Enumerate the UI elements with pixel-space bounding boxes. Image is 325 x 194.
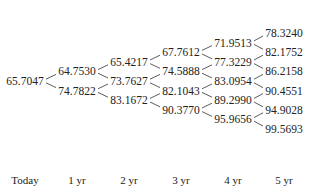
period-label: 2 yr: [120, 174, 137, 186]
tree-edge: [202, 46, 212, 51]
tree-edge: [254, 64, 263, 69]
tree-edge: [254, 94, 263, 99]
tree-edge: [150, 102, 160, 107]
tree-edge: [98, 73, 108, 78]
tree-node: 77.3229: [214, 56, 251, 68]
tree-edge: [46, 83, 56, 88]
tree-edge: [254, 102, 263, 107]
tree-node: 99.5693: [265, 123, 302, 135]
period-label: 1 yr: [68, 174, 85, 186]
period-label: Today: [11, 174, 38, 186]
tree-node: 71.9513: [214, 37, 251, 49]
period-label: 4 yr: [224, 174, 241, 186]
tree-edge: [202, 92, 212, 97]
tree-edge: [202, 103, 212, 108]
tree-node: 64.7530: [58, 65, 95, 77]
tree-node: 65.4217: [110, 56, 147, 68]
tree-edge: [254, 74, 263, 79]
tree-edge: [254, 113, 263, 118]
tree-edge: [254, 121, 263, 126]
tree-edge: [254, 55, 263, 60]
tree-edge: [254, 83, 263, 88]
tree-node: 82.1752: [265, 46, 302, 58]
tree-edge: [202, 54, 212, 59]
tree-edge: [202, 73, 212, 78]
tree-edge: [202, 112, 212, 117]
tree-node: 73.7627: [110, 75, 147, 87]
tree-edge: [98, 92, 108, 97]
tree-edge: [254, 36, 263, 41]
tree-node: 74.7822: [58, 85, 95, 97]
tree-node: 83.0954: [214, 75, 251, 87]
period-label: 3 yr: [172, 174, 189, 186]
tree-node: 78.3240: [265, 27, 302, 39]
tree-edge: [150, 64, 160, 69]
tree-node: 65.7047: [6, 75, 43, 87]
tree-node: 90.4551: [265, 85, 302, 97]
tree-node: 95.9656: [214, 113, 251, 125]
tree-node: 90.3770: [162, 104, 199, 116]
tree-edge: [254, 44, 263, 49]
tree-node: 82.1043: [162, 85, 199, 97]
tree-edge: [98, 65, 108, 70]
tree-node: 83.1672: [110, 94, 147, 106]
tree-node: 94.9028: [265, 104, 302, 116]
tree-node: 86.2158: [265, 65, 302, 77]
tree-edge: [150, 74, 160, 79]
tree-edge: [202, 65, 212, 70]
tree-node: 67.7612: [162, 46, 199, 58]
tree-edge: [202, 84, 212, 89]
binomial-tree: 65.704764.753074.782265.421773.762783.16…: [0, 0, 325, 194]
tree-edge: [98, 84, 108, 89]
period-label: 5 yr: [275, 174, 292, 186]
tree-edge: [150, 83, 160, 88]
tree-node: 74.5888: [162, 65, 199, 77]
tree-edge: [46, 74, 56, 79]
tree-node: 89.2990: [214, 94, 251, 106]
tree-edge: [150, 55, 160, 60]
tree-edge: [150, 94, 160, 99]
